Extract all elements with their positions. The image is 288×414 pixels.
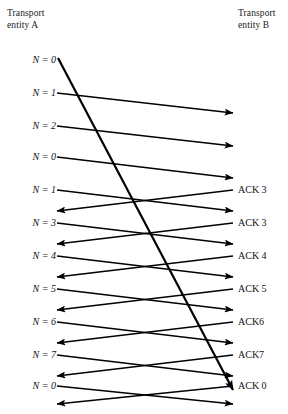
left-label-4: N = 1 bbox=[33, 185, 56, 195]
right-label-1: ACK 3 bbox=[238, 218, 267, 228]
left-label-7: N = 5 bbox=[33, 284, 56, 294]
right-label-6: ACK 0 bbox=[238, 381, 267, 391]
data-arrow-n2 bbox=[57, 126, 233, 146]
right-label-4: ACK6 bbox=[238, 317, 264, 327]
data-arrow-n1 bbox=[57, 93, 233, 113]
data-arrow-n0-b bbox=[57, 157, 233, 178]
left-label-3: N = 0 bbox=[33, 152, 56, 162]
timing-diagram: Transport entity A Transport entity B N … bbox=[0, 0, 288, 414]
right-label-3: ACK 5 bbox=[238, 284, 267, 294]
left-label-8: N = 6 bbox=[33, 317, 56, 327]
left-label-5: N = 3 bbox=[33, 218, 56, 228]
left-label-2: N = 2 bbox=[33, 121, 56, 131]
left-label-9: N = 7 bbox=[33, 350, 56, 360]
left-label-0: N = 0 bbox=[33, 55, 56, 65]
left-label-10: N = 0 bbox=[33, 381, 56, 391]
right-label-2: ACK 4 bbox=[238, 251, 267, 261]
right-label-5: ACK7 bbox=[238, 350, 264, 360]
left-label-6: N = 4 bbox=[33, 251, 56, 261]
right-label-0: ACK 3 bbox=[238, 185, 267, 195]
left-label-1: N = 1 bbox=[33, 88, 56, 98]
